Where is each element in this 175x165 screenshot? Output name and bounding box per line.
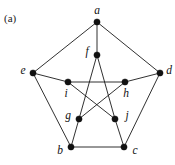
vertex-label-c: c	[132, 145, 137, 157]
vertex-label-b: b	[57, 145, 63, 157]
graph-edge-a-d	[97, 22, 160, 73]
vertex-label-a: a	[94, 5, 100, 17]
graph-vertex-c	[121, 144, 127, 150]
graph-edge-g-h	[79, 82, 125, 119]
vertex-label-d: d	[166, 65, 172, 77]
figure-container: (a) abcdefghij	[0, 0, 175, 165]
vertex-label-j: j	[125, 110, 128, 122]
graph-vertex-j	[112, 116, 118, 122]
graph-vertex-e	[30, 70, 36, 76]
graph-edge-e-i	[33, 73, 68, 82]
graph-vertex-h	[122, 79, 128, 85]
graph-vertex-i	[65, 79, 71, 85]
graph-vertex-a	[94, 19, 100, 25]
graph-vertex-g	[76, 116, 82, 122]
graph-vertex-b	[68, 144, 74, 150]
edge-layer	[33, 22, 160, 147]
vertex-label-e: e	[20, 65, 25, 77]
vertex-label-f: f	[85, 46, 88, 58]
graph-vertex-d	[157, 70, 163, 76]
vertex-label-h: h	[123, 88, 129, 100]
graph-edge-d-h	[125, 73, 160, 82]
graph-edge-i-j	[68, 82, 115, 119]
petersen-graph-drawing	[0, 0, 175, 165]
vertex-label-i: i	[64, 88, 67, 100]
vertex-layer	[30, 19, 163, 150]
graph-edge-d-c	[124, 73, 160, 147]
graph-edge-b-g	[71, 119, 79, 147]
graph-vertex-f	[94, 52, 100, 58]
graph-edge-c-j	[115, 119, 124, 147]
vertex-label-g: g	[65, 110, 71, 122]
graph-edge-f-g	[79, 55, 97, 119]
graph-edge-f-j	[97, 55, 115, 119]
